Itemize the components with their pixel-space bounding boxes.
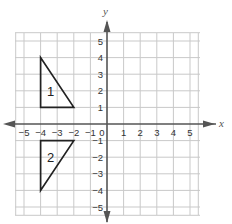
coordinate-plane: x y −5−4−3−2−1012345 54321−1−2−3−4−5 12 [0,0,232,224]
x-tick-label: 4 [171,127,176,138]
x-axis-arrow-right-icon [203,121,215,128]
x-tick-label: −5 [19,127,30,138]
x-tick-label: −4 [35,127,46,138]
y-tick-label: 4 [98,52,103,63]
x-axis-arrow-left-icon [3,121,15,128]
x-tick-label: −2 [68,127,79,138]
y-tick-label: 3 [98,69,103,80]
triangle-label: 2 [47,150,54,165]
y-tick-label: −4 [92,185,103,196]
x-axis-label: x [218,117,224,129]
y-axis-arrow-up-icon [104,20,111,32]
x-tick-labels: −5−4−3−2−1012345 [19,127,193,138]
y-tick-label: −1 [92,135,103,146]
y-tick-label: −2 [92,152,103,163]
y-tick-label: 1 [98,102,103,113]
y-tick-label: −3 [92,168,103,179]
y-axis-arrow-down-icon [104,211,111,223]
x-tick-label: 5 [187,127,192,138]
x-tick-label: −3 [52,127,63,138]
y-tick-label: −5 [92,202,103,213]
triangle-label: 1 [47,84,54,99]
x-tick-label: 3 [154,127,159,138]
y-tick-label: 5 [98,36,103,47]
y-axis-label: y [102,5,108,17]
x-tick-label: 2 [138,127,143,138]
x-tick-label: 1 [121,127,126,138]
y-tick-label: 2 [98,85,103,96]
